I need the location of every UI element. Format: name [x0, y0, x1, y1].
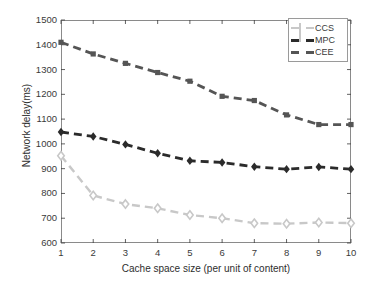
data-point-marker	[316, 218, 323, 226]
legend-label-cee: CEE	[315, 46, 334, 58]
legend-swatch-mpc	[291, 34, 315, 46]
legend-swatch-cee	[291, 46, 315, 58]
data-point-marker	[58, 128, 65, 136]
x-tick-label: 10	[339, 247, 363, 258]
data-point-marker	[122, 200, 129, 208]
data-point-marker	[154, 149, 161, 157]
data-point-marker	[58, 40, 63, 45]
series-line	[61, 132, 351, 169]
x-tick-label: 1	[49, 247, 73, 258]
data-point-marker	[155, 70, 160, 75]
data-point-marker	[154, 204, 161, 212]
x-tick-label: 6	[210, 247, 234, 258]
data-point-marker	[122, 140, 129, 148]
x-axis-label: Cache space size (per unit of content)	[61, 263, 351, 274]
data-point-marker	[252, 98, 257, 103]
data-point-marker	[220, 94, 225, 99]
data-point-marker	[123, 61, 128, 66]
chart-figure: 600700800900100011001200130014001500 123…	[0, 0, 368, 294]
data-point-marker	[283, 219, 290, 227]
series-line	[61, 156, 351, 224]
data-point-marker	[90, 191, 97, 199]
x-tick-label: 4	[146, 247, 170, 258]
data-point-marker	[348, 165, 355, 173]
data-point-marker	[348, 122, 353, 127]
data-point-marker	[187, 211, 194, 219]
x-tick-label: 2	[81, 247, 105, 258]
data-point-marker	[251, 219, 258, 227]
data-point-marker	[187, 79, 192, 84]
legend-label-ccs: CCS	[315, 22, 334, 34]
series-mpc	[58, 128, 355, 174]
legend-item-cee: CEE	[291, 46, 344, 58]
data-point-marker	[284, 112, 289, 117]
x-tick-label: 5	[178, 247, 202, 258]
series-ccs	[58, 152, 355, 228]
data-point-marker	[219, 158, 226, 166]
x-tick-label: 7	[242, 247, 266, 258]
legend-item-ccs: CCS	[291, 22, 344, 34]
data-point-marker	[316, 122, 321, 127]
x-tick-label: 3	[113, 247, 137, 258]
legend-swatch-ccs	[291, 22, 315, 34]
data-point-marker	[316, 163, 323, 171]
legend-item-mpc: MPC	[291, 34, 344, 46]
data-point-marker	[219, 214, 226, 222]
legend-label-mpc: MPC	[315, 34, 335, 46]
y-tick-label: 700	[23, 213, 57, 223]
y-tick-label: 1400	[23, 40, 57, 50]
legend: CCS MPC CEE	[288, 18, 348, 62]
data-point-marker	[283, 165, 290, 173]
data-point-marker	[90, 132, 97, 140]
y-tick-label: 1500	[23, 15, 57, 25]
data-point-marker	[251, 162, 258, 170]
data-point-marker	[91, 51, 96, 56]
x-tick-label: 9	[307, 247, 331, 258]
data-point-marker	[187, 157, 194, 165]
data-point-marker	[348, 219, 355, 227]
x-tick-label: 8	[275, 247, 299, 258]
y-axis-label: Network delay(ms)	[21, 56, 32, 196]
